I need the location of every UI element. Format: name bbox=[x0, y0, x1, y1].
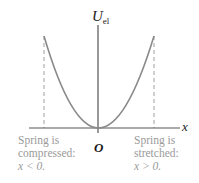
annotation-line: Spring is bbox=[134, 134, 179, 147]
potential-energy-curve bbox=[44, 36, 154, 128]
annotation-condition: x > 0. bbox=[134, 160, 179, 173]
compressed-annotation: Spring is compressed: x < 0. bbox=[18, 134, 75, 173]
annotation-line: Spring is bbox=[18, 134, 75, 147]
x-axis-label: x bbox=[182, 119, 188, 135]
annotation-line: stretched: bbox=[134, 147, 179, 160]
annotation-line: compressed: bbox=[18, 147, 75, 160]
stretched-annotation: Spring is stretched: x > 0. bbox=[134, 134, 179, 173]
annotation-condition: x < 0. bbox=[18, 160, 75, 173]
origin-label: O bbox=[94, 140, 103, 156]
y-axis-label: Uel bbox=[92, 8, 109, 26]
